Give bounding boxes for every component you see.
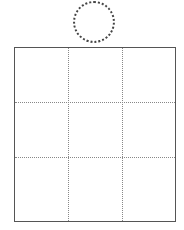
dotted-circle <box>73 1 115 43</box>
grid-divider-horizontal-2 <box>15 157 175 158</box>
grid-divider-vertical-2 <box>122 48 123 221</box>
grid-3x3 <box>14 47 176 222</box>
grid-divider-vertical-1 <box>68 48 69 221</box>
grid-divider-horizontal-1 <box>15 102 175 103</box>
